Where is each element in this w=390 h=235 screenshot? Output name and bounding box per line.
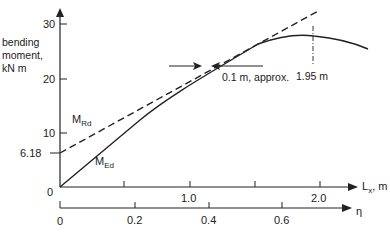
peak-annotation: 1.95 m: [296, 70, 328, 82]
mrd-label-sub: Rd: [81, 119, 91, 128]
eta-tick-label-02: 0.2: [127, 214, 142, 226]
y-tick-label-10: 10: [43, 127, 55, 139]
x-axis-label-unit: , m: [372, 180, 387, 192]
eta-tick-label-04: 0.4: [201, 214, 216, 226]
x-axis-arrow-icon: [348, 183, 358, 191]
x-tick-label-2: 2.0: [311, 192, 326, 204]
med-label: MEd: [95, 155, 114, 172]
y-tick-label-30: 30: [43, 18, 55, 30]
x-tick-label-1: 1.0: [181, 192, 196, 204]
x-axis-label: Lx, m: [362, 180, 387, 197]
med-label-sub: Ed: [104, 161, 114, 170]
eta-tick-label-06: 0.6: [274, 214, 289, 226]
med-label-m: M: [95, 155, 104, 167]
eta-tick-label-0: 0: [57, 215, 63, 227]
mrd-label: MRd: [72, 113, 91, 130]
y-axis-label: bending moment, kN m: [2, 36, 50, 75]
y-axis-arrow-icon: [56, 8, 64, 17]
y-tick-label-618: 6.18: [20, 147, 41, 159]
y-tick-label-0: 0: [47, 186, 53, 198]
approx-annotation: 0.1 m, approx.: [222, 71, 289, 83]
eta-axis-arrow-icon: [342, 204, 352, 212]
mrd-label-m: M: [72, 113, 81, 125]
eta-axis-label: η: [356, 205, 362, 217]
y-tick-label-20: 20: [43, 73, 55, 85]
